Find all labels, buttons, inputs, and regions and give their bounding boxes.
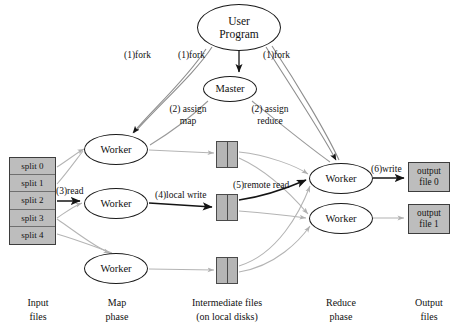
caption-output-files-line1: Output <box>400 296 458 310</box>
caption-map-phase: Map phase <box>86 296 148 323</box>
caption-output-files-line2: files <box>400 310 458 324</box>
worker1-to-interm1 <box>149 150 214 153</box>
node-user-program[interactable]: User Program <box>197 4 281 51</box>
map-worker-1-label: Worker <box>100 144 131 155</box>
caption-intermediate-files: Intermediate files (on local disks) <box>171 296 283 323</box>
intermediate-file-icon-3[interactable] <box>216 257 238 284</box>
assign-map-line1: assign <box>183 104 207 114</box>
map-worker-3-label: Worker <box>100 263 131 274</box>
input-split-3[interactable]: split 3 <box>10 210 55 227</box>
user-program-line1: User <box>228 15 250 27</box>
output-file-0[interactable]: output file 0 <box>408 162 450 192</box>
edge-label-assign-map: (2) assign map <box>164 104 212 127</box>
mapreduce-execution-overview-diagram: User Program Master Worker Worker Worker… <box>0 0 460 331</box>
intermediate-to-reduce-edges <box>239 152 310 272</box>
reduce-worker-2-label: Worker <box>325 213 356 224</box>
map-to-intermediate-edges <box>149 150 214 270</box>
output-file-1-line2: file 1 <box>419 219 438 230</box>
map-worker-2-label: Worker <box>100 198 131 209</box>
node-reduce-worker-1[interactable]: Worker <box>309 163 373 194</box>
edge-label-fork-middle: (1)fork <box>178 50 205 62</box>
edge-label-read: (3)read <box>56 186 83 198</box>
edge-label-write: (6)write <box>371 164 402 176</box>
edge-label-local-write: (4)local write <box>155 190 206 202</box>
assign-map-number: (2) <box>169 104 180 114</box>
caption-reduce-phase: Reduce phase <box>308 296 374 323</box>
reduce-to-output-edges <box>373 178 404 218</box>
split0-to-worker1 <box>57 149 84 167</box>
input-split-2[interactable]: split 2 <box>10 192 55 209</box>
node-map-worker-1[interactable]: Worker <box>84 134 148 165</box>
output-file-0-line1: output <box>417 166 441 177</box>
worker2-to-interm2-local-write <box>149 203 212 207</box>
caption-reduce-phase-line1: Reduce <box>308 296 374 310</box>
node-reduce-worker-2[interactable]: Worker <box>309 203 373 234</box>
split1-to-worker1 <box>57 151 83 184</box>
edge-label-remote-read: (5)remote read <box>233 180 289 192</box>
reduce-worker-1-label: Worker <box>325 173 356 184</box>
fork-edge-to-reduce-worker-2 <box>272 46 339 160</box>
output-file-1[interactable]: output file 1 <box>408 204 450 234</box>
input-split-0[interactable]: split 0 <box>10 158 55 175</box>
assign-map-line2: map <box>180 116 196 126</box>
caption-input-files-line2: files <box>8 310 68 324</box>
edge-label-assign-reduce: (2) assign reduce <box>246 104 294 127</box>
assign-reduce-number: (2) <box>251 104 262 114</box>
node-master[interactable]: Master <box>203 76 257 102</box>
input-splits-stack: split 0 split 1 split 2 split 3 split 4 <box>9 157 56 245</box>
caption-input-files: Input files <box>8 296 68 323</box>
caption-map-phase-line1: Map <box>86 296 148 310</box>
assign-reduce-line1: assign <box>265 104 289 114</box>
caption-intermediate-files-line2: (on local disks) <box>171 310 283 324</box>
caption-output-files: Output files <box>400 296 458 323</box>
edge-label-fork-right: (1)fork <box>263 50 290 62</box>
input-split-4[interactable]: split 4 <box>10 227 55 244</box>
node-map-worker-2[interactable]: Worker <box>84 188 148 219</box>
caption-reduce-phase-line2: phase <box>308 310 374 324</box>
caption-intermediate-files-line1: Intermediate files <box>171 296 283 310</box>
input-split-1[interactable]: split 1 <box>10 175 55 192</box>
split3-to-worker2 <box>57 203 82 218</box>
intermediate-file-icon-1[interactable] <box>216 141 238 168</box>
output-file-1-line1: output <box>417 208 441 219</box>
intermediate-file-icon-2[interactable] <box>216 194 238 221</box>
interm3-to-reduce2 <box>239 226 310 272</box>
assign-reduce-line2: reduce <box>257 116 282 126</box>
edge-label-fork-left: (1)fork <box>124 50 151 62</box>
output-file-0-line2: file 0 <box>419 177 438 188</box>
caption-input-files-line1: Input <box>8 296 68 310</box>
master-label: Master <box>215 83 244 94</box>
split4-to-worker3 <box>57 234 112 253</box>
user-program-line2: Program <box>219 28 259 40</box>
node-map-worker-3[interactable]: Worker <box>84 253 148 284</box>
worker3-to-interm3 <box>149 269 214 270</box>
caption-map-phase-line2: phase <box>86 310 148 324</box>
